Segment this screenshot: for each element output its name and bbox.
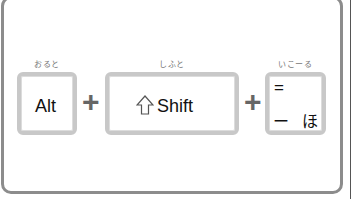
- equal-key-top: =: [274, 78, 284, 98]
- equal-key-bottom-right: ほ: [302, 108, 318, 132]
- alt-key: Alt: [17, 72, 77, 135]
- edge-divider: [350, 0, 351, 199]
- shift-key-reading: しふと: [105, 58, 239, 69]
- equal-key: = ー ほ: [265, 72, 326, 135]
- equal-key-reading: いこーる: [264, 58, 326, 69]
- shift-key: Shift: [105, 72, 239, 135]
- plus-sign-2: +: [244, 87, 262, 117]
- alt-key-text: Alt: [35, 96, 56, 117]
- equal-key-bottom-left: ー: [273, 108, 289, 132]
- plus-sign-1: +: [82, 87, 100, 117]
- shift-key-text: Shift: [157, 96, 193, 117]
- alt-key-reading: おると: [17, 58, 77, 69]
- shift-arrow-icon: [136, 95, 154, 119]
